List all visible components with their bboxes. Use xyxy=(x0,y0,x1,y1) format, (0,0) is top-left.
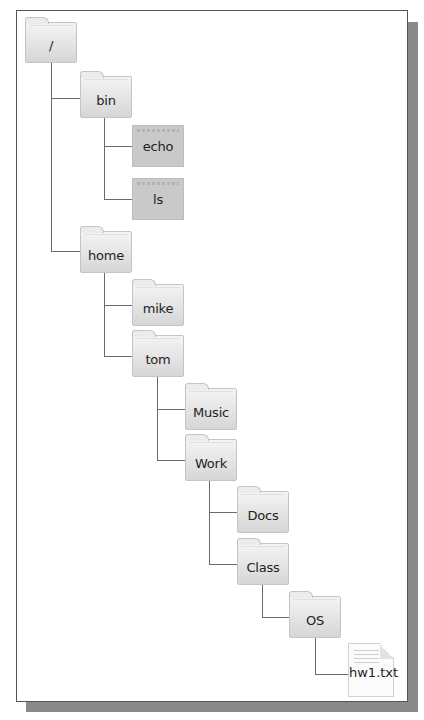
connector xyxy=(209,480,210,565)
folder-label: / xyxy=(49,38,53,53)
file-label: ls xyxy=(153,192,163,207)
file-echo[interactable]: echo xyxy=(132,125,184,167)
connector xyxy=(104,356,132,357)
folder-label: home xyxy=(88,248,124,263)
connector xyxy=(51,251,80,252)
folder-label: bin xyxy=(96,93,116,108)
folder-root[interactable]: / xyxy=(25,22,77,63)
file-label-hw1: hw1.txt xyxy=(349,665,398,680)
file-label: echo xyxy=(143,139,174,154)
connector xyxy=(104,117,105,200)
connector xyxy=(104,305,132,306)
connector xyxy=(209,564,237,565)
file-ls[interactable]: ls xyxy=(132,178,184,220)
connector xyxy=(104,272,105,357)
folder-home[interactable]: home xyxy=(80,231,132,273)
folder-mike[interactable]: mike xyxy=(132,284,184,326)
connector xyxy=(157,409,185,410)
connector xyxy=(262,617,289,618)
folder-work[interactable]: Work xyxy=(185,439,237,481)
connector xyxy=(262,584,263,618)
folder-music[interactable]: Music xyxy=(185,388,237,430)
connector xyxy=(104,199,132,200)
folder-label: Work xyxy=(195,456,227,471)
connector xyxy=(315,637,316,675)
folder-label: OS xyxy=(306,613,324,628)
folder-label: Class xyxy=(246,560,279,575)
diagram-frame xyxy=(16,10,408,702)
connector xyxy=(51,98,80,99)
connector xyxy=(157,460,185,461)
folder-os[interactable]: OS xyxy=(289,596,341,638)
connector xyxy=(315,674,349,675)
folder-label: Docs xyxy=(247,508,278,523)
connector xyxy=(51,63,52,252)
folder-label: tom xyxy=(145,352,170,367)
folder-class[interactable]: Class xyxy=(237,543,289,585)
folder-label: mike xyxy=(143,301,174,316)
folder-bin[interactable]: bin xyxy=(80,76,132,118)
connector xyxy=(209,512,237,513)
folder-label: Music xyxy=(193,405,229,420)
folder-docs[interactable]: Docs xyxy=(237,491,289,533)
folder-tom[interactable]: tom xyxy=(132,335,184,377)
connector xyxy=(157,376,158,461)
text-lines-icon xyxy=(354,650,379,666)
connector xyxy=(104,146,132,147)
